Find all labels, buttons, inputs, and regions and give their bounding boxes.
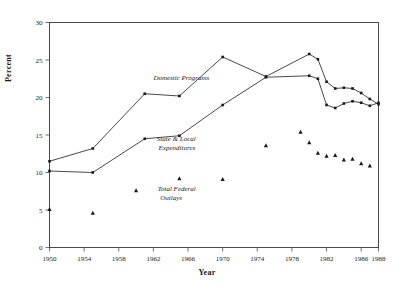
data-point xyxy=(265,76,268,79)
data-point xyxy=(91,171,94,174)
data-point xyxy=(134,188,138,192)
plot-frame xyxy=(50,23,379,248)
data-point xyxy=(264,143,268,147)
y-tick-label: 30 xyxy=(36,19,44,27)
series-domestic-programs xyxy=(48,53,380,163)
data-point xyxy=(334,87,337,90)
series-annotation: Total Federal xyxy=(158,185,196,193)
x-tick-label: 1950 xyxy=(43,255,58,263)
data-point xyxy=(143,92,146,95)
x-tick-label: 1962 xyxy=(146,255,161,263)
data-point xyxy=(178,95,181,98)
data-point xyxy=(308,53,311,56)
y-tick-label: 10 xyxy=(36,169,44,177)
x-tick-label: 1966 xyxy=(181,255,196,263)
data-point xyxy=(342,157,346,161)
data-point xyxy=(369,104,372,107)
data-point xyxy=(334,107,337,110)
data-point xyxy=(351,100,354,103)
data-point xyxy=(307,140,311,144)
y-tick-label: 20 xyxy=(36,94,44,102)
data-point xyxy=(351,87,354,90)
data-point xyxy=(317,58,320,61)
chart-plot-area: 051015202530 195019541958196219661970197… xyxy=(0,0,414,286)
x-tick-label: 1970 xyxy=(216,255,231,263)
data-point xyxy=(368,163,372,167)
data-point xyxy=(369,98,372,101)
data-point xyxy=(359,161,363,165)
data-point xyxy=(48,160,51,163)
data-point xyxy=(343,102,346,105)
data-point xyxy=(377,101,380,104)
data-point xyxy=(333,153,337,157)
data-point xyxy=(91,147,94,150)
chart-annotations: Domestic ProgramsState & LocalExpenditur… xyxy=(152,74,209,201)
data-point xyxy=(221,177,225,181)
x-tick-label: 1978 xyxy=(285,255,300,263)
series-total-federal-outlays xyxy=(47,130,372,215)
y-tick-label: 15 xyxy=(36,132,44,140)
data-point xyxy=(221,56,224,59)
x-tick-label: 1982 xyxy=(320,255,335,263)
data-point xyxy=(298,130,302,134)
data-point xyxy=(221,104,224,107)
series-annotation: Outlays xyxy=(160,194,182,202)
data-point xyxy=(316,151,320,155)
data-point xyxy=(47,207,51,211)
y-axis-ticks: 051015202530 xyxy=(36,19,50,252)
data-point xyxy=(317,77,320,80)
data-point xyxy=(350,157,354,161)
x-axis-title: Year xyxy=(0,268,414,277)
chart-container: 051015202530 195019541958196219661970197… xyxy=(0,0,414,286)
x-axis-ticks: 1950195419581962196619701974197819821986… xyxy=(43,248,387,263)
data-point xyxy=(308,74,311,77)
y-tick-label: 25 xyxy=(36,57,44,65)
series-annotation: Expenditures xyxy=(158,144,196,152)
data-point xyxy=(177,176,181,180)
y-tick-label: 0 xyxy=(39,244,43,252)
series-annotation: Domestic Programs xyxy=(152,74,209,82)
data-point xyxy=(360,92,363,95)
y-axis-title: Percent xyxy=(4,33,13,103)
data-point xyxy=(360,101,363,104)
x-tick-label: 1986 xyxy=(354,255,369,263)
data-point xyxy=(48,170,51,173)
x-tick-label: 1954 xyxy=(77,255,92,263)
series-annotation: State & Local xyxy=(157,135,196,143)
data-point xyxy=(343,86,346,89)
x-tick-label: 1988 xyxy=(372,255,387,263)
data-point xyxy=(143,137,146,140)
data-point xyxy=(325,104,328,107)
data-point xyxy=(91,211,95,215)
data-point xyxy=(325,80,328,83)
x-tick-label: 1958 xyxy=(112,255,127,263)
series-state-local-expenditures xyxy=(48,74,380,173)
x-tick-label: 1974 xyxy=(250,255,265,263)
data-series-layer xyxy=(47,53,379,215)
data-point xyxy=(324,154,328,158)
y-tick-label: 5 xyxy=(39,207,43,215)
